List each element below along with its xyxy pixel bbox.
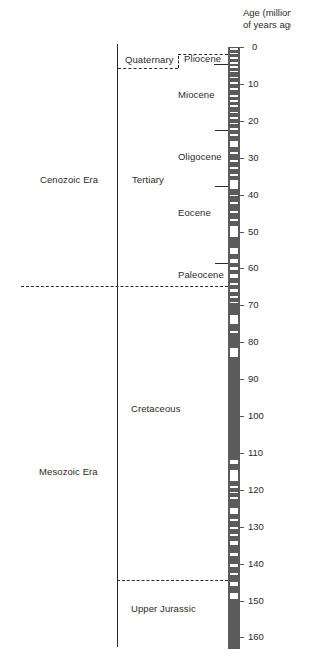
age-tick-mark — [240, 637, 244, 638]
age-tick-mark — [240, 416, 244, 417]
normal-polarity-band — [230, 296, 238, 298]
normal-polarity-band — [230, 470, 238, 481]
period-label-tertiary: Tertiary — [132, 175, 164, 185]
normal-polarity-band — [230, 174, 238, 176]
normal-polarity-band — [230, 348, 238, 357]
normal-polarity-band — [230, 274, 238, 278]
age-tick-label: 160 — [248, 632, 264, 642]
age-tick-label: 120 — [248, 485, 264, 495]
normal-polarity-band — [230, 134, 238, 136]
normal-polarity-band — [230, 226, 238, 237]
age-tick-mark — [240, 342, 244, 343]
normal-polarity-band — [230, 88, 238, 90]
normal-polarity-band — [230, 167, 238, 169]
normal-polarity-band — [230, 62, 238, 64]
axis-title: Age (millions of years ago) — [243, 7, 291, 31]
normal-polarity-band — [230, 219, 238, 222]
oligocene-eocene-boundary — [215, 186, 228, 187]
age-tick-mark — [240, 158, 244, 159]
normal-polarity-band — [230, 141, 238, 147]
age-tick-mark — [240, 601, 244, 602]
normal-polarity-band — [230, 112, 238, 114]
age-tick-label: 50 — [248, 227, 259, 237]
axis-title-line1: Age (millions — [243, 7, 291, 19]
normal-polarity-band — [230, 48, 238, 50]
epoch-label-paleocene: Paleocene — [178, 270, 224, 280]
normal-polarity-band — [230, 573, 238, 575]
normal-polarity-band — [230, 519, 238, 521]
age-tick-label: 110 — [248, 448, 263, 458]
normal-polarity-band — [230, 57, 238, 59]
age-tick-mark — [240, 527, 244, 528]
age-tick-label: 70 — [248, 300, 259, 310]
age-tick-label: 130 — [248, 522, 264, 532]
normal-polarity-band — [230, 117, 238, 119]
quaternary-bottom-boundary — [118, 68, 178, 69]
age-tick-label: 90 — [248, 374, 259, 384]
normal-polarity-band — [230, 66, 238, 67]
normal-polarity-band — [230, 315, 238, 324]
normal-polarity-band — [230, 486, 238, 488]
normal-polarity-band — [230, 527, 238, 529]
age-tick-mark — [240, 490, 244, 491]
normal-polarity-band — [230, 564, 238, 568]
normal-polarity-band — [230, 582, 238, 586]
normal-polarity-band — [230, 492, 238, 494]
age-tick-label: 60 — [248, 263, 259, 273]
normal-polarity-band — [230, 331, 238, 333]
age-tick-label: 150 — [248, 596, 264, 606]
normal-polarity-band — [230, 128, 238, 129]
epoch-label-oligocene: Oligocene — [178, 152, 222, 162]
normal-polarity-band — [230, 289, 238, 293]
era-label-cenozoic: Cenozoic Era — [40, 175, 98, 185]
age-tick-label: 40 — [248, 190, 259, 200]
normal-polarity-band — [230, 211, 238, 213]
normal-polarity-band — [230, 82, 238, 84]
age-tick-mark — [240, 121, 244, 122]
age-tick-mark — [240, 379, 244, 380]
epoch-label-eocene: Eocene — [178, 208, 211, 218]
normal-polarity-band — [230, 195, 238, 197]
age-tick-mark — [240, 564, 244, 565]
normal-polarity-band — [230, 534, 238, 536]
normal-polarity-band — [230, 53, 238, 54]
normal-polarity-band — [230, 152, 238, 154]
period-label-quaternary: Quaternary — [125, 55, 174, 65]
age-tick-mark — [240, 305, 244, 306]
normal-polarity-band — [230, 160, 238, 163]
eocene-paleocene-boundary — [215, 263, 228, 264]
period-label-cretaceous: Cretaceous — [131, 404, 181, 414]
age-tick-mark — [240, 453, 244, 454]
age-tick-label: 100 — [248, 411, 264, 421]
age-tick-label: 30 — [248, 153, 259, 163]
normal-polarity-band — [230, 105, 238, 107]
normal-polarity-band — [230, 541, 238, 545]
age-tick-label: 20 — [248, 116, 259, 126]
normal-polarity-band — [230, 267, 238, 271]
quaternary-right-boundary — [178, 56, 179, 68]
normal-polarity-band — [230, 460, 238, 464]
normal-polarity-band — [230, 77, 238, 79]
normal-polarity-band — [230, 180, 238, 189]
epoch-label-pliocene: Pliocene — [184, 54, 221, 64]
age-tick-label: 140 — [248, 559, 264, 569]
age-tick-mark — [240, 84, 244, 85]
normal-polarity-band — [230, 100, 238, 101]
age-tick-label: 10 — [248, 79, 259, 89]
age-tick-mark — [240, 47, 244, 48]
axis-title-line2: of years ago) — [243, 19, 291, 31]
cretaceous-jurassic-boundary — [117, 580, 228, 581]
normal-polarity-band — [230, 202, 238, 204]
period-label-upper-jurassic: Upper Jurassic — [131, 604, 196, 614]
magnetic-polarity-column — [228, 47, 240, 649]
cenozoic-mesozoic-boundary — [21, 286, 228, 287]
era-period-divider-line — [117, 44, 118, 647]
normal-polarity-band — [230, 497, 238, 499]
era-label-mesozoic: Mesozoic Era — [39, 467, 98, 477]
miocene-oligocene-boundary — [215, 130, 228, 131]
age-tick-mark — [240, 195, 244, 196]
pliocene-bottom-boundary — [214, 64, 228, 65]
normal-polarity-band — [230, 593, 238, 599]
age-tick-mark — [240, 268, 244, 269]
normal-polarity-band — [230, 553, 238, 557]
